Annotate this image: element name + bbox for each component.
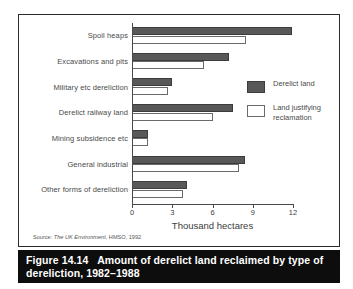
chart-panel: Spoil heapsExcavations and pitsMilitary … bbox=[18, 14, 340, 247]
source-label: Source: bbox=[33, 234, 52, 240]
bar-land-justifying-reclamation bbox=[132, 164, 239, 172]
bar-land-justifying-reclamation bbox=[132, 190, 183, 198]
x-axis-tick-label: 12 bbox=[289, 208, 297, 217]
category-label: Excavations and pits bbox=[16, 56, 128, 65]
bar-land-justifying-reclamation bbox=[132, 87, 168, 95]
legend-label-derelict-land: Derelict land bbox=[273, 79, 339, 89]
legend-item-land-justifying-reclamation: Land justifying reclamation bbox=[247, 103, 339, 127]
bar-derelict-land bbox=[132, 53, 229, 61]
bar-land-justifying-reclamation bbox=[132, 138, 148, 146]
category-label: Spoil heaps bbox=[16, 31, 128, 40]
legend-item-derelict-land: Derelict land bbox=[247, 79, 339, 103]
x-axis-tick-label: 0 bbox=[130, 208, 134, 217]
x-axis-tick-label: 3 bbox=[170, 208, 174, 217]
category-label: Derelict railway land bbox=[16, 108, 128, 117]
figure-number: Figure 14.14 bbox=[26, 254, 88, 266]
figure-caption-bar: Figure 14.14 Amount of derelict land rec… bbox=[18, 250, 340, 283]
plot-area: Spoil heapsExcavations and pitsMilitary … bbox=[19, 15, 341, 248]
x-axis-tick-label: 9 bbox=[251, 208, 255, 217]
bar-derelict-land bbox=[132, 27, 292, 35]
chart-legend: Derelict land Land justifying reclamatio… bbox=[247, 79, 339, 127]
bar-derelict-land bbox=[132, 181, 187, 189]
figure-container: Spoil heapsExcavations and pitsMilitary … bbox=[18, 14, 340, 283]
category-label: Mining subsidence etc bbox=[16, 134, 128, 143]
bar-land-justifying-reclamation bbox=[132, 36, 246, 44]
y-axis-line bbox=[132, 23, 133, 204]
category-label: Military etc dereliction bbox=[16, 82, 128, 91]
bar-derelict-land bbox=[132, 78, 172, 86]
bar-derelict-land bbox=[132, 130, 148, 138]
x-axis-title: Thousand hectares bbox=[172, 220, 253, 231]
legend-swatch-derelict-land bbox=[247, 81, 265, 93]
figure-caption: Figure 14.14 Amount of derelict land rec… bbox=[26, 254, 332, 279]
category-label: Other forms of dereliction bbox=[16, 185, 128, 194]
bar-derelict-land bbox=[132, 156, 245, 164]
category-label: General industrial bbox=[16, 159, 128, 168]
source-publication: The UK Environment bbox=[54, 234, 106, 240]
bar-land-justifying-reclamation bbox=[132, 113, 213, 121]
legend-swatch-land-justifying-reclamation bbox=[247, 105, 265, 117]
bar-derelict-land bbox=[132, 104, 233, 112]
legend-label-land-justifying-reclamation: Land justifying reclamation bbox=[273, 103, 339, 122]
bar-land-justifying-reclamation bbox=[132, 61, 204, 69]
source-rest: , HMSO, 1992 bbox=[106, 234, 141, 240]
x-axis-tick-label: 6 bbox=[210, 208, 214, 217]
source-note: Source: The UK Environment, HMSO, 1992 bbox=[33, 234, 141, 240]
